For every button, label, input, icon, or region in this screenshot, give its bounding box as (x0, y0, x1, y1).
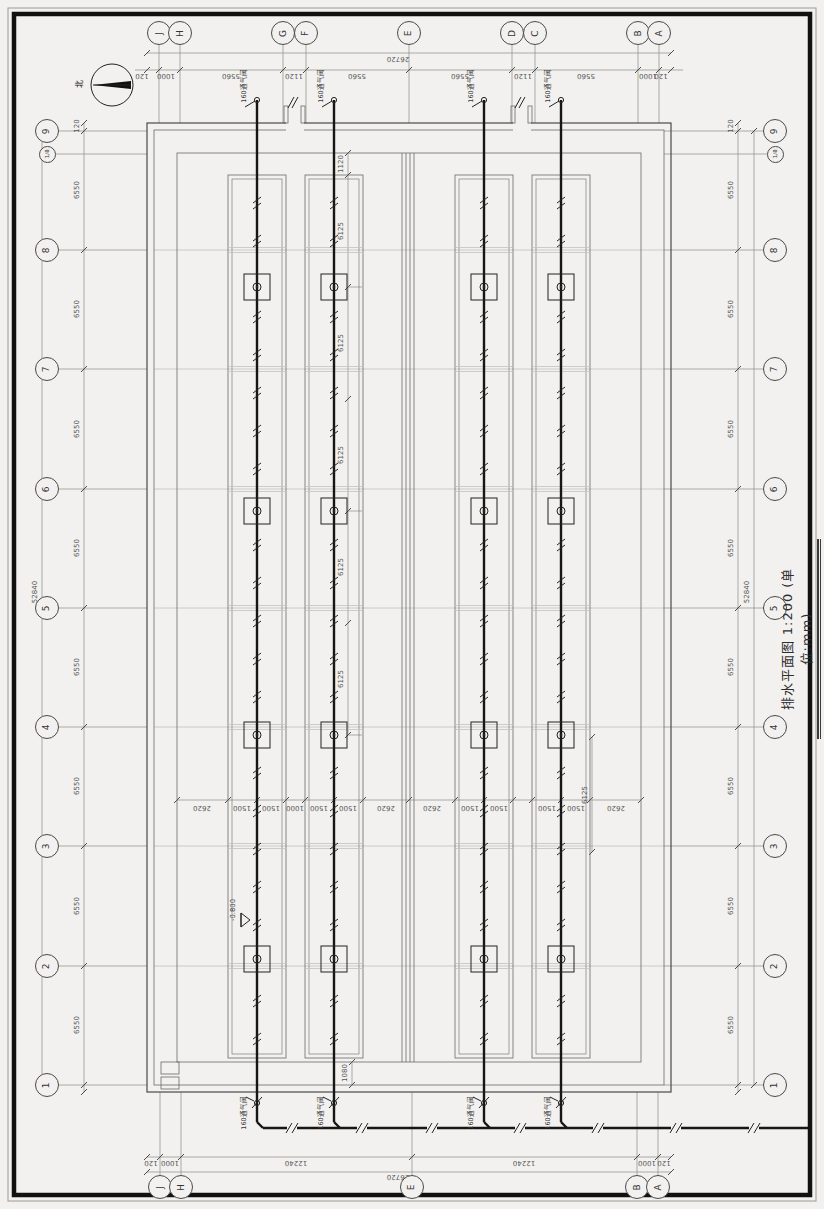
dimension-overall-label: 52840 (744, 581, 751, 603)
dimension-label: 6550 (74, 658, 81, 676)
grid-bubble-label: B (634, 30, 643, 36)
grid-bubble-label: 9 (42, 128, 51, 134)
grid-bubble: E (397, 21, 421, 45)
vent-valve-label: 160通气阀 (468, 69, 475, 102)
grid-bubble: 5 (35, 596, 59, 620)
grid-bubble: 1/8 (767, 146, 784, 163)
dimension-label: 1000 (161, 1159, 179, 1166)
dimension-label: 6125 (338, 558, 345, 576)
grid-bubble: 6 (35, 477, 59, 501)
vent-valve-label: 160通气阀 (545, 1096, 552, 1129)
drawing-sheet: 1201000556011205560556011205560100012026… (0, 0, 824, 1209)
dimension-label: 6550 (728, 300, 735, 318)
dimension-label: 6125 (338, 222, 345, 240)
vent-valve-label: 160通气阀 (318, 69, 325, 102)
dimension-label: 1120 (514, 72, 532, 79)
grid-bubble-label: 4 (42, 724, 51, 730)
dimension-label: 6550 (728, 658, 735, 676)
dimension-label: 1500 (538, 804, 556, 811)
dimension-label: 1500 (461, 804, 479, 811)
dimension-label: 5560 (348, 72, 366, 79)
dimension-label: 6550 (74, 1016, 81, 1034)
grid-bubble: 1 (763, 1073, 787, 1097)
grid-bubble: G (271, 21, 295, 45)
dimension-label: 1500 (339, 804, 357, 811)
vent-valve-label: 160通气阀 (468, 1096, 475, 1129)
vent-valve-label: 160通气阀 (545, 69, 552, 102)
grid-bubble-label: 7 (770, 366, 779, 372)
dimension-overall-label: 26720 (387, 55, 409, 62)
grid-bubble-label: 9 (770, 128, 779, 134)
grid-bubble-label: J (155, 32, 164, 35)
grid-bubble-label: H (177, 1184, 186, 1191)
grid-bubble-label: J (156, 1186, 165, 1189)
grid-bubble: C (523, 21, 547, 45)
grid-bubble: 9 (763, 119, 787, 143)
dimension-label: 1120 (338, 155, 345, 173)
grid-bubble-label: 1 (770, 1082, 779, 1088)
dimension-label: 6125 (338, 334, 345, 352)
grid-bubble: 1/8 (39, 146, 56, 163)
dimension-label: 6550 (728, 539, 735, 557)
dimension-label: 6550 (728, 420, 735, 438)
dimension-label: 5560 (222, 72, 240, 79)
grid-bubble: 2 (35, 954, 59, 978)
grid-bubble-label: 1 (42, 1082, 51, 1088)
grid-bubble-label: C (530, 30, 539, 36)
grid-bubble-label: 3 (770, 843, 779, 849)
grid-bubble-label: 5 (42, 605, 51, 611)
dimension-label: 12240 (285, 1159, 307, 1166)
dimension-label: 2620 (377, 804, 395, 811)
dimension-label: 120 (135, 72, 148, 79)
grid-bubble: 8 (35, 238, 59, 262)
dimension-label: 6550 (74, 539, 81, 557)
grid-bubble: E (400, 1175, 424, 1199)
grid-bubble-label: 1/8 (772, 150, 778, 159)
grid-bubble-label: E (408, 1184, 417, 1190)
dimension-label: 2620 (423, 804, 441, 811)
grid-bubble: A (646, 1175, 670, 1199)
plan-drawing (0, 0, 824, 1209)
dimension-label: 1000 (286, 804, 304, 811)
vent-valve-label: 160通气阀 (241, 1096, 248, 1129)
dimension-label: 6550 (74, 300, 81, 318)
grid-bubble-label: 3 (42, 843, 51, 849)
grid-bubble: 8 (763, 238, 787, 262)
dimension-label: 6125 (582, 786, 589, 804)
elevation-label: -0.800 (230, 899, 237, 921)
grid-bubble: A (647, 21, 671, 45)
grid-bubble-label: D (508, 30, 517, 37)
sump-boxes (244, 274, 574, 972)
grid-bubble-label: A (654, 30, 663, 36)
dimension-label: 120 (728, 119, 735, 132)
elevation-marker (241, 913, 250, 927)
dimension-label: 6125 (338, 446, 345, 464)
dimension-label: 6550 (728, 181, 735, 199)
dimension-label: 2620 (193, 804, 211, 811)
dimension-label: 2620 (607, 804, 625, 811)
grid-bubble-label: A (653, 1184, 662, 1190)
north-label: 北 (76, 80, 84, 88)
grid-bubble: H (169, 1175, 193, 1199)
dimension-label: 6550 (74, 181, 81, 199)
dimension-label: 120 (657, 1159, 670, 1166)
collector-pipe (263, 1122, 812, 1134)
grid-bubble-label: 1/8 (44, 150, 50, 159)
grid-bubble-label: 6 (770, 486, 779, 492)
grid-bubble-label: G (278, 30, 287, 37)
dimension-label: 6550 (74, 897, 81, 915)
grid-bubble-label: B (633, 1184, 642, 1190)
sheet-frame (8, 8, 816, 1201)
grid-bubble: 9 (35, 119, 59, 143)
dimension-label: 6550 (728, 1016, 735, 1034)
dimension-label: 1500 (233, 804, 251, 811)
drawing-title: 排水平面图 1:200 (单位:mm) (777, 539, 803, 739)
grid-bubble-label: 2 (42, 963, 51, 969)
grid-bubble-label: H (176, 30, 185, 37)
water-channels (228, 175, 590, 1058)
dimension-label: 5560 (577, 72, 595, 79)
vent-valve-label: 160通气阀 (318, 1096, 325, 1129)
grid-bubble: F (294, 21, 318, 45)
grid-bubble-label: 6 (42, 486, 51, 492)
grid-bubble-label: F (302, 30, 311, 35)
